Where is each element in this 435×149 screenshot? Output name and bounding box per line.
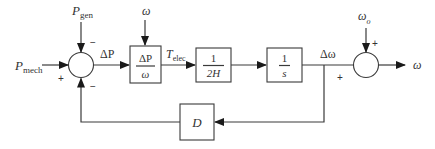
inertia-block: 1 2H <box>196 48 231 82</box>
svg-text:2H: 2H <box>207 67 222 79</box>
t-elec-signal-label: Telec <box>166 47 186 63</box>
delta-p-signal-label: ΔP <box>100 47 115 61</box>
svg-text:D: D <box>191 115 202 130</box>
damping-block: D <box>180 104 214 140</box>
summing-junction-2 <box>354 53 379 78</box>
svg-text:ΔP: ΔP <box>139 52 152 64</box>
sign-plus-left: + <box>58 73 64 84</box>
omega-output-label: ω <box>413 58 421 72</box>
omega-o-label: ωo <box>358 9 370 26</box>
sign-minus-top: − <box>90 37 96 48</box>
svg-text:1: 1 <box>282 52 288 64</box>
p-mech-input: Pmech + <box>14 58 68 84</box>
sign-plus-j2-top: + <box>372 38 378 49</box>
p-gen-input: Pgen − <box>71 3 96 52</box>
svg-text:ω: ω <box>142 68 150 80</box>
svg-text:1: 1 <box>211 52 217 64</box>
svg-text:s: s <box>282 67 286 79</box>
svg-text:Pmech: Pmech <box>14 58 43 75</box>
omega-input-label: ω <box>142 4 150 18</box>
sign-plus-j2-left: + <box>337 72 343 83</box>
svg-text:Pgen: Pgen <box>71 3 93 20</box>
delta-omega-signal-label: Δω <box>320 47 336 61</box>
sign-minus-bottom: − <box>90 81 96 92</box>
torque-block: ΔP ω <box>130 46 161 83</box>
integrator-block: 1 s <box>267 48 302 82</box>
summing-junction-1 <box>69 53 94 78</box>
block-diagram: Pmech + Pgen − − ΔP ω ΔP ω Telec 1 2H 1 … <box>0 0 435 149</box>
